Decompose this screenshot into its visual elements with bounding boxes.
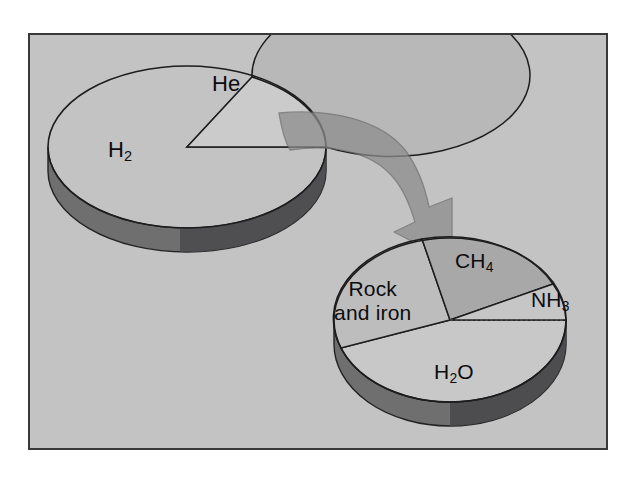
pie-2-label-rock-and-iron: Rockand iron [334, 277, 412, 325]
pie-2-label-h2o: H2O [434, 360, 474, 384]
pie-2-label-nh3: NH3 [531, 288, 570, 312]
pie-1-label-he: He [212, 72, 241, 97]
pie-2-label-nh3-sub: 3 [562, 298, 570, 314]
figure-frame [28, 33, 608, 450]
pie-1-label-h2-base: H [108, 137, 124, 162]
pie-2-label-h2o-sub: 2 [449, 370, 457, 386]
pie-2-label-ch4: CH4 [455, 249, 494, 273]
pie-2-label-h2o-base1: H [434, 360, 449, 383]
pie-2-label-rock-line2: and iron [334, 301, 412, 324]
pie-2-label-rock-line1: Rock [348, 277, 397, 300]
pie-2-label-h2o-base2: O [457, 360, 474, 383]
pie-2-label-nh3-base: NH [531, 288, 562, 311]
pie-2-label-ch4-base: CH [455, 249, 486, 272]
pie-1-label-h2: H2 [108, 138, 132, 163]
pie-1-label-h2-sub: 2 [124, 148, 132, 164]
pie-2-label-ch4-sub: 4 [486, 259, 494, 275]
figure-root: H2 He CH4 NH3 H2O Rockand iron [0, 0, 633, 482]
